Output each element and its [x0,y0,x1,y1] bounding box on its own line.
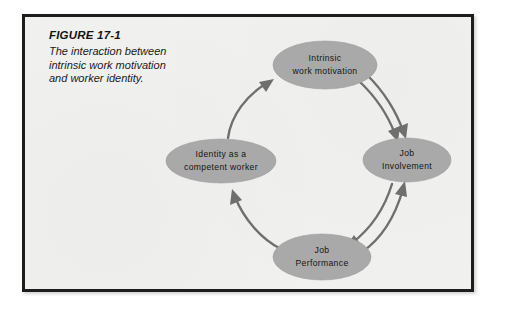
node-identity-as-competent-worker[interactable]: Identity as a competent worker [166,139,276,183]
figure-frame: FIGURE 17-1 The interaction between intr… [22,14,474,292]
node-label-line2: Involvement [382,161,432,171]
arrow-involvement-to-performance [345,184,392,248]
arrow-performance-to-identity [230,189,281,249]
figure-container: FIGURE 17-1 The interaction between intr… [0,0,519,312]
node-label-line2: Performance [295,258,348,268]
arrow-performance-to-involvement [362,181,407,252]
arrow-motivation-to-involvement-a [366,74,408,139]
node-label-line2: competent worker [184,162,258,172]
figure-caption-block: FIGURE 17-1 The interaction between intr… [49,29,181,86]
figure-number-label: FIGURE 17-1 [49,29,181,42]
node-label-line1: Intrinsic [309,53,342,63]
node-label-line1: Identity as a [196,149,247,159]
node-job-performance[interactable]: Job Performance [273,234,371,280]
figure-caption-text: The interaction between intrinsic work m… [49,45,181,86]
arrow-identity-to-motivation [228,79,274,138]
node-job-involvement[interactable]: Job Involvement [363,138,451,182]
node-intrinsic-work-motivation[interactable]: Intrinsic work motivation [273,41,377,89]
node-label-line2: work motivation [292,66,358,76]
node-label-line1: Job [315,245,330,255]
node-label-line1: Job [400,148,415,158]
